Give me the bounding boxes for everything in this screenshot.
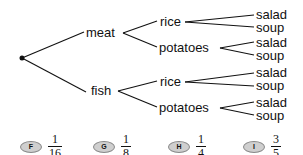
node-meat-potatoes-soup: soup — [256, 49, 284, 62]
node-fish-rice: rice — [160, 75, 181, 88]
node-meat-potatoes: potatoes — [159, 41, 209, 54]
node-fish-rice-soup: soup — [256, 79, 284, 92]
node-fish-potatoes-soup: soup — [256, 109, 284, 122]
fraction-i: 3 5 — [271, 134, 281, 155]
answer-choice-g[interactable]: G 1 8 — [93, 134, 131, 155]
fraction-f: 1 16 — [48, 134, 62, 155]
answer-choice-h[interactable]: H 1 4 — [168, 134, 206, 155]
answer-choice-f[interactable]: F 1 16 — [20, 134, 62, 155]
node-fish: fish — [91, 84, 111, 97]
answer-choices: F 1 16 G 1 8 H 1 4 I 3 5 — [0, 130, 303, 155]
answer-bubble-i[interactable]: I — [243, 141, 265, 153]
answer-bubble-g[interactable]: G — [93, 141, 115, 153]
node-fish-potatoes: potatoes — [159, 101, 209, 114]
fraction-h: 1 4 — [196, 134, 206, 155]
node-meat: meat — [86, 26, 115, 39]
fraction-g: 1 8 — [121, 134, 131, 155]
answer-choice-i[interactable]: I 3 5 — [243, 134, 281, 155]
answer-bubble-f[interactable]: F — [20, 141, 42, 153]
answer-bubble-h[interactable]: H — [168, 141, 190, 153]
node-meat-rice-soup: soup — [256, 21, 284, 34]
node-meat-rice: rice — [160, 15, 181, 28]
tree-diagram: meat fish rice potatoes rice potatoes sa… — [0, 0, 303, 130]
